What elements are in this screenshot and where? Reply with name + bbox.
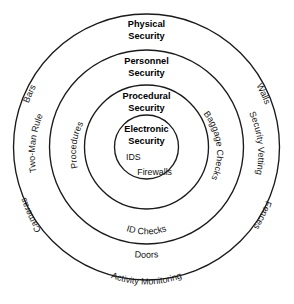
arc-label-procedures: Procedures xyxy=(68,119,85,170)
ring-title-procedural-line2: Security xyxy=(128,103,165,113)
security-layers-diagram: Physical Security Personnel Security Pro… xyxy=(0,0,294,304)
ring-title-physical-line2: Security xyxy=(128,31,165,41)
core-item-firewalls: Firewalls xyxy=(137,167,172,177)
ring-title-electronic-line1: Electronic xyxy=(124,124,168,134)
ring-outline-personnel-security xyxy=(50,50,244,244)
ring-outline-physical-security xyxy=(14,14,280,280)
rings-svg: Physical Security Personnel Security Pro… xyxy=(0,0,294,304)
arc-label-two-man-rule: Two-Man Rule xyxy=(27,112,45,173)
arc-label-doors: Doors xyxy=(134,249,159,260)
ring-title-physical-line1: Physical xyxy=(128,19,165,29)
core-item-ids: IDS xyxy=(126,152,141,162)
arc-label-security-vetting: Security Vetting xyxy=(247,110,266,176)
ring-title-personnel-line1: Personnel xyxy=(124,56,168,66)
ring-title-electronic-line2: Security xyxy=(128,136,165,146)
ring-title-procedural-line1: Procedural xyxy=(123,91,171,101)
ring-title-personnel-line2: Security xyxy=(128,68,165,78)
arc-label-id-checks: ID Checks xyxy=(125,223,167,236)
arc-label-bars: Bars xyxy=(21,82,38,104)
arc-label-fences: Fences xyxy=(252,200,274,232)
arc-label-walls: Walls xyxy=(254,82,272,107)
arc-label-activity-monitoring: Activity Monitoring xyxy=(110,270,183,286)
arc-label-cameras: Cameras xyxy=(18,196,43,234)
arc-label-baggage-checks: Baggage Checks xyxy=(202,109,225,182)
